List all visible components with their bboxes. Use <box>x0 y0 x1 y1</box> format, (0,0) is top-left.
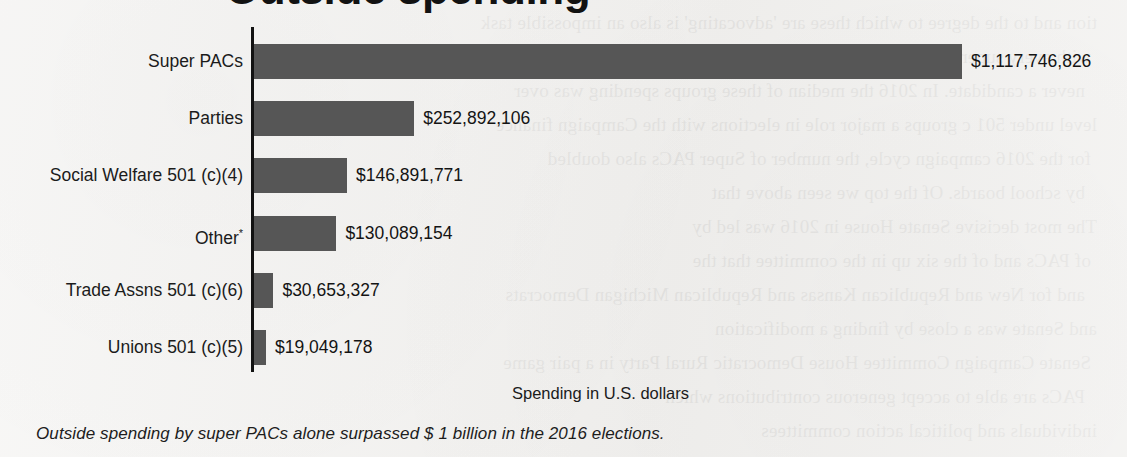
figure-caption: Outside spending by super PACs alone sur… <box>36 424 665 444</box>
bar <box>254 330 266 365</box>
footnote-marker: * <box>239 227 243 239</box>
category-label-unions-501-c-5: Unions 501 (c)(5) <box>0 330 243 365</box>
bar <box>254 101 414 136</box>
category-label-trade-assns-501-c-6: Trade Assns 501 (c)(6) <box>0 273 243 308</box>
bar <box>254 216 336 251</box>
bar-value-label: $30,653,327 <box>282 273 379 308</box>
bar-value-label: $1,117,746,826 <box>971 44 1091 79</box>
bar <box>254 44 962 79</box>
category-label-parties: Parties <box>0 101 243 136</box>
x-axis-title: Spending in U.S. dollars <box>0 384 1127 403</box>
bar-value-label: $252,892,106 <box>423 101 530 136</box>
x-axis-title-text: Spending in U.S. dollars <box>512 384 689 403</box>
bar-chart: Outside spending Super PACs$1,117,746,82… <box>0 0 1127 457</box>
bar <box>254 158 347 193</box>
chart-title-clipped: Outside spending <box>0 0 1127 13</box>
bar-value-label: $19,049,178 <box>275 330 372 365</box>
chart-title: Outside spending <box>225 0 590 13</box>
bar-value-label: $146,891,771 <box>356 158 463 193</box>
bar-value-label: $130,089,154 <box>345 216 452 251</box>
category-label-social-welfare-501-c-4: Social Welfare 501 (c)(4) <box>0 158 243 193</box>
category-label-other: Other* <box>0 216 243 256</box>
bar <box>254 273 273 308</box>
category-label-super-pacs: Super PACs <box>0 44 243 79</box>
